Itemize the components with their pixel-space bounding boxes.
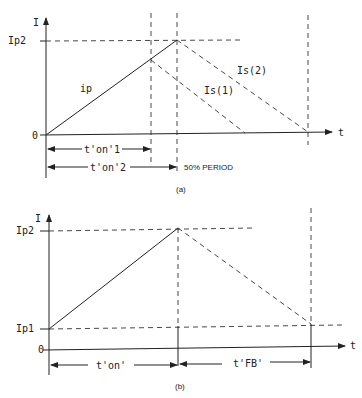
ip2-level-line: [49, 228, 255, 231]
ton1-label: t'on'1: [84, 144, 120, 155]
ip1-label: Ip1: [16, 323, 34, 334]
tfb-label: t'FB': [233, 358, 263, 369]
ip-label: ip: [80, 83, 92, 94]
is1-label: Is(1): [204, 85, 234, 96]
primary-ramp: [49, 228, 178, 329]
panel-a-caption: (a): [176, 185, 186, 194]
ip2-level-line: [46, 40, 240, 41]
diagram-canvas: I t Ip2 0 ip Is(1) Is(2) t'on'1 t'on'2 5…: [0, 0, 362, 398]
flyback-ramp: [178, 228, 311, 324]
x-axis: [43, 346, 345, 350]
panel-b-caption: (b): [175, 382, 185, 391]
is1-curve: [151, 60, 245, 133]
is2-label: Is(2): [237, 65, 267, 76]
zero-label: 0: [32, 130, 38, 141]
ton2-label: t'on'2: [90, 162, 126, 173]
ip2-label: Ip2: [8, 35, 26, 46]
x-axis-label: t: [338, 127, 344, 138]
fifty-percent-period-label: 50% PERIOD: [184, 163, 233, 172]
y-axis-label: I: [35, 213, 41, 224]
is2-curve: [177, 40, 308, 132]
ip2-label: Ip2: [16, 225, 34, 236]
x-axis-label: t: [350, 340, 356, 351]
ton-label: t'on': [96, 360, 126, 371]
x-axis: [40, 132, 332, 135]
zero-label: 0: [38, 344, 44, 355]
ip-ramp: [46, 40, 177, 135]
panel-a: I t Ip2 0 ip Is(1) Is(2) t'on'1 t'on'2 5…: [8, 13, 344, 194]
panel-b: I t Ip2 Ip1 0 t'on' t'FB' (b): [16, 208, 356, 391]
ip1-level-line: [49, 325, 342, 329]
y-axis-label: I: [33, 17, 39, 28]
